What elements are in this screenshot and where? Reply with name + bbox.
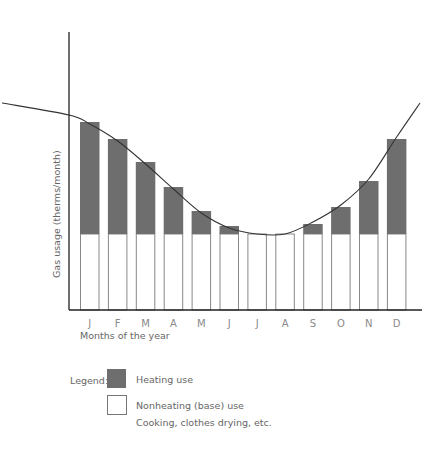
bar-heating-9 xyxy=(331,207,351,234)
bar-base-5 xyxy=(220,234,239,310)
x-tick-7: A xyxy=(282,318,289,329)
legend-swatch-heating xyxy=(107,369,126,388)
bar-base-8 xyxy=(304,234,323,310)
x-tick-5: J xyxy=(227,318,231,329)
x-tick-11: D xyxy=(393,318,401,329)
bar-heating-10 xyxy=(359,181,379,234)
x-tick-6: J xyxy=(255,318,259,329)
bar-heating-3 xyxy=(164,187,184,234)
bar-base-0 xyxy=(81,234,100,310)
bar-base-1 xyxy=(108,234,127,310)
bar-base-4 xyxy=(192,234,211,310)
legend-title: Legend: xyxy=(70,375,108,386)
x-tick-0: J xyxy=(87,318,91,329)
x-axis-title: Months of the year xyxy=(80,330,170,341)
x-tick-9: O xyxy=(337,318,345,329)
gas-usage-chart: JFMAMJJASOND Months of the year Gas usag… xyxy=(0,0,432,450)
bar-base-10 xyxy=(360,234,379,310)
y-axis-title: Gas usage (therms/month) xyxy=(51,150,62,278)
x-tick-labels: JFMAMJJASOND xyxy=(87,318,401,329)
legend-label-heating: Heating use xyxy=(136,374,193,385)
x-tick-2: M xyxy=(141,318,150,329)
bar-heating-11 xyxy=(387,139,407,234)
legend: Legend: Heating use Nonheating (base) us… xyxy=(70,369,272,428)
bar-base-3 xyxy=(164,234,183,310)
x-tick-3: A xyxy=(170,318,177,329)
bar-heating-2 xyxy=(136,162,156,234)
bar-base-11 xyxy=(387,234,406,310)
bar-base-2 xyxy=(136,234,155,310)
bar-base-6 xyxy=(248,234,267,310)
x-tick-8: S xyxy=(310,318,316,329)
x-tick-10: N xyxy=(365,318,372,329)
legend-swatch-nonheating xyxy=(108,396,127,415)
legend-label-nonheating: Nonheating (base) use xyxy=(136,400,244,411)
bar-heating-4 xyxy=(192,211,212,234)
bar-base-9 xyxy=(332,234,351,310)
x-tick-4: M xyxy=(197,318,206,329)
bar-heating-1 xyxy=(108,139,128,234)
bar-base-7 xyxy=(276,234,295,310)
legend-sublabel-nonheating: Cooking, clothes drying, etc. xyxy=(136,417,272,428)
x-tick-1: F xyxy=(115,318,121,329)
bar-heating-0 xyxy=(80,122,100,234)
